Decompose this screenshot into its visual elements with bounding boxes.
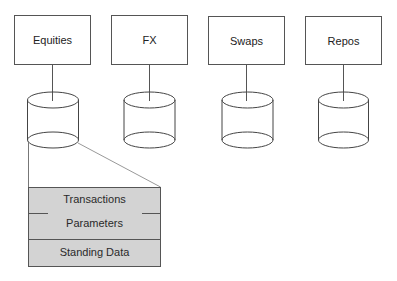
projection-line-right (78, 143, 161, 187)
table-row-standing-data: Standing Data (29, 246, 160, 258)
database-cylinder-icon (222, 92, 273, 148)
system-box-swaps: Swaps (208, 16, 285, 65)
partial-divider-left (29, 213, 48, 214)
system-label: FX (142, 34, 156, 46)
system-label: Swaps (230, 35, 263, 47)
table-row-parameters: Parameters (29, 217, 160, 229)
system-label: Equities (33, 34, 72, 46)
system-box-repos: Repos (305, 16, 382, 65)
partial-divider-right (142, 213, 160, 214)
database-detail-table: Transactions Parameters Standing Data (28, 187, 161, 267)
table-divider (29, 239, 160, 240)
system-box-fx: FX (111, 15, 188, 65)
system-box-equities: Equities (14, 15, 91, 65)
connectors (53, 64, 344, 101)
table-row-transactions: Transactions (29, 193, 160, 205)
system-label: Repos (328, 35, 360, 47)
